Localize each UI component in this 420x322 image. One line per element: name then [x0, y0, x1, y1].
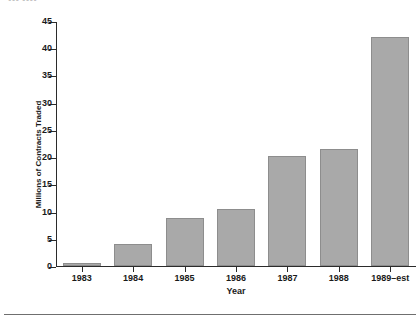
y-tick-label: 15 — [42, 179, 52, 190]
x-tick-label: 1983 — [56, 273, 107, 283]
x-tick-label: 1984 — [107, 273, 158, 283]
bar-1984 — [114, 244, 152, 266]
x-tick-mark — [390, 266, 391, 272]
x-tick-label: 1985 — [159, 273, 210, 283]
x-tick-mark — [287, 266, 288, 272]
bottom-divider — [4, 314, 416, 315]
bar-chart: Millions of Contracts Traded 05101520253… — [0, 0, 420, 300]
x-tick-mark — [82, 266, 83, 272]
x-axis-title: Year — [56, 286, 416, 296]
x-tick-mark — [185, 266, 186, 272]
y-tick-label: 25 — [42, 125, 52, 136]
bar-1987 — [268, 156, 306, 266]
y-tick-label: 45 — [42, 16, 52, 27]
bar-1989-est — [371, 37, 409, 266]
y-tick-label: 5 — [47, 234, 52, 245]
x-tick-label: 1988 — [313, 273, 364, 283]
x-tick-mark — [236, 266, 237, 272]
plot-area: 051015202530354045 198319841985198619871… — [56, 22, 416, 267]
x-tick-label: 1987 — [262, 273, 313, 283]
y-axis-line — [56, 22, 57, 267]
bar-1986 — [217, 209, 255, 266]
x-tick-label: 1986 — [210, 273, 261, 283]
x-tick-mark — [133, 266, 134, 272]
y-tick-label: 10 — [42, 207, 52, 218]
bar-1988 — [320, 149, 358, 266]
y-tick-label: 30 — [42, 98, 52, 109]
y-tick-label: 20 — [42, 152, 52, 163]
y-tick-label: 40 — [42, 43, 52, 54]
y-tick-label: 35 — [42, 70, 52, 81]
x-tick-mark — [339, 266, 340, 272]
x-tick-label: 1989–est — [365, 273, 416, 283]
y-tick-label: 0 — [47, 261, 52, 272]
bar-1985 — [166, 218, 204, 266]
